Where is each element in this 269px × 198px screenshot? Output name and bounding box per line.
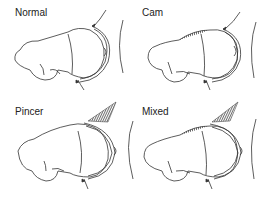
- panel-cam: Cam: [134, 0, 268, 99]
- cam-lesion: [179, 30, 208, 40]
- panel-normal: Normal: [0, 0, 134, 99]
- pincer-lesion: [212, 102, 238, 122]
- hip-joint-drawing: [0, 99, 134, 198]
- cam-lesion: [180, 126, 208, 135]
- hip-joint-drawing: [0, 0, 134, 99]
- hip-joint-drawing: [134, 0, 268, 99]
- pincer-lesion: [88, 102, 116, 122]
- acetabulum-edge: [94, 10, 106, 26]
- hip-joint-drawing: [134, 99, 268, 198]
- panel-pincer: Pincer: [0, 99, 134, 198]
- panel-mixed: Mixed: [134, 99, 268, 198]
